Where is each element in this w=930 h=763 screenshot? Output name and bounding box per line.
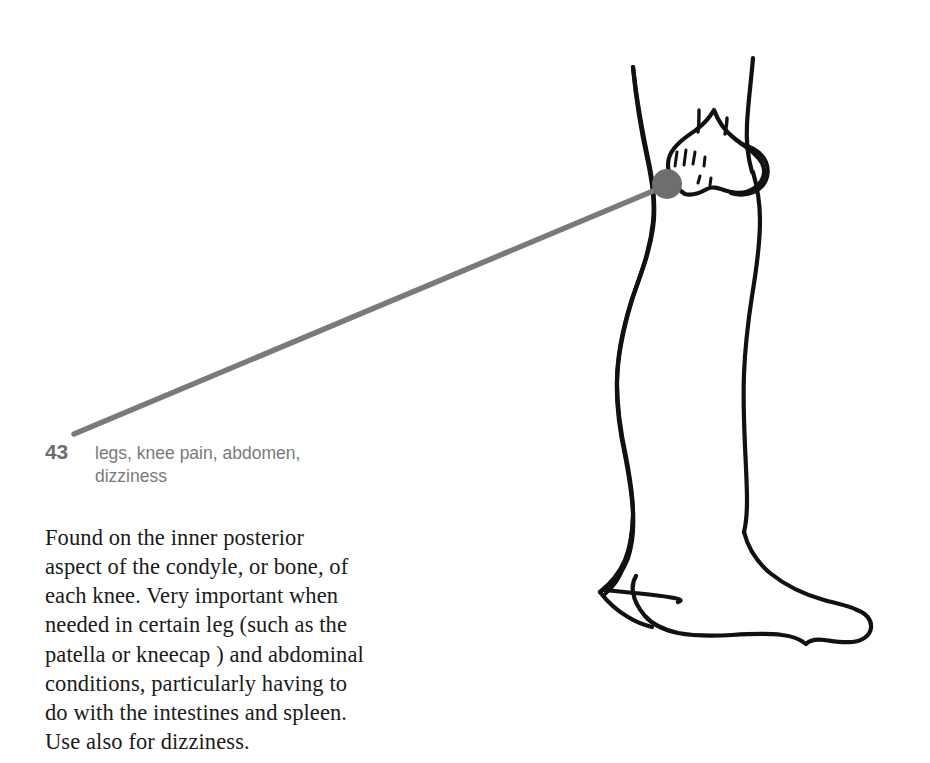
caption-number: 43 (45, 440, 95, 465)
body-line: patella or kneecap ) and abdominal (45, 640, 405, 669)
caption-block: 43 legs, knee pain, abdomen, dizziness (45, 440, 375, 488)
body-line: aspect of the condyle, or bone, of (45, 552, 405, 581)
illustration-page: 43 legs, knee pain, abdomen, dizziness F… (0, 0, 930, 763)
caption-keywords: legs, knee pain, abdomen, dizziness (95, 440, 375, 488)
body-line: each knee. Very important when (45, 581, 405, 610)
caption-keywords-line-1: legs, knee pain, abdomen, (95, 443, 300, 463)
body-line: Use also for dizziness. (45, 727, 405, 756)
acupressure-point-dot (652, 169, 682, 199)
leader-line (74, 186, 665, 434)
body-line: do with the intestines and spleen. (45, 698, 405, 727)
body-line: needed in certain leg (such as the (45, 610, 405, 639)
caption-keywords-line-2: dizziness (95, 466, 167, 486)
body-paragraph: Found on the inner posterior aspect of t… (45, 523, 405, 756)
body-line: Found on the inner posterior (45, 523, 405, 552)
body-line: conditions, particularly having to (45, 669, 405, 698)
